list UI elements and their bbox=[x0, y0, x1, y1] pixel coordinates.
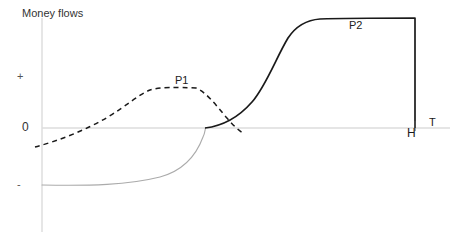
axis-label-positive: + bbox=[17, 71, 23, 82]
money-flows-chart: Money flows + 0 - P1 P2 H T bbox=[0, 0, 451, 250]
series-baseline-gray bbox=[42, 128, 206, 185]
axis-label-time: T bbox=[429, 117, 436, 128]
chart-canvas bbox=[0, 0, 451, 250]
axis-label-zero: 0 bbox=[22, 121, 29, 133]
series-label-p1: P1 bbox=[175, 75, 188, 86]
series-p1-dashed bbox=[35, 87, 243, 147]
axis-label-negative: - bbox=[17, 179, 21, 190]
series-p2-solid bbox=[205, 18, 415, 128]
chart-title: Money flows bbox=[22, 8, 83, 19]
series-label-p2: P2 bbox=[349, 20, 362, 31]
marker-label-h: H bbox=[407, 127, 416, 139]
